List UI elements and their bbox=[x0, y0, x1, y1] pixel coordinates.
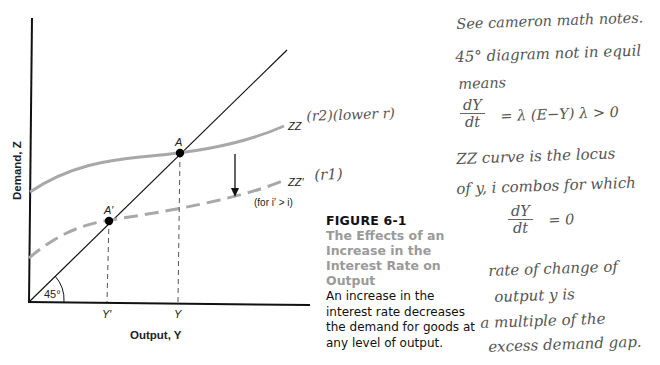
chart: A A′ ZZ ZZ′ (for i′ > i) 45° Y′ Y Output… bbox=[0, 0, 330, 365]
hw-eq1-den: dt bbox=[460, 114, 485, 130]
x-axis-label: Output, Y bbox=[130, 329, 182, 341]
hw-eq1-rhs: = λ (E−Y) λ > 0 bbox=[500, 104, 619, 124]
45-degree-line bbox=[29, 50, 287, 302]
x-axis bbox=[28, 302, 310, 305]
hw-line3: means bbox=[458, 74, 506, 92]
figure-label: FIGURE 6-1 bbox=[326, 213, 476, 228]
figure-body: An increase in the interest rate decreas… bbox=[326, 289, 476, 351]
hw-eq1-num: dY bbox=[460, 97, 485, 114]
hw-eq1-frac: dY dt bbox=[460, 97, 485, 130]
dropline-a bbox=[178, 153, 180, 302]
figure-caption: FIGURE 6-1 The Effects of an Increase in… bbox=[326, 213, 476, 351]
label-a-prime: A′ bbox=[103, 204, 114, 216]
hw-line1: See cameron math notes. bbox=[456, 9, 644, 32]
hw-line4: ZZ curve is the locus bbox=[456, 144, 616, 168]
hw-line6: rate of change of bbox=[488, 257, 618, 280]
label-angle: 45° bbox=[44, 288, 61, 300]
hw-eq2-frac: dY dt bbox=[508, 203, 533, 236]
tick-y: Y bbox=[174, 308, 182, 320]
figure-title: The Effects of an Increase in the Intere… bbox=[326, 228, 476, 288]
hw-line7: output y is bbox=[494, 285, 575, 306]
hw-zzp-note: (r1) bbox=[314, 165, 343, 184]
hw-eq2-den: dt bbox=[508, 220, 533, 236]
hw-line8: a multiple of the bbox=[480, 310, 606, 332]
hw-line5: of y, i combos for which bbox=[456, 174, 636, 198]
y-axis bbox=[29, 18, 32, 303]
hw-zz-note: (r2)(lower r) bbox=[306, 105, 395, 124]
tick-y-prime: Y′ bbox=[102, 308, 112, 320]
label-zz: ZZ bbox=[287, 120, 303, 132]
hw-eq2-rhs: = 0 bbox=[548, 211, 575, 228]
hw-eq2-num: dY bbox=[508, 203, 533, 220]
label-a: A bbox=[174, 136, 182, 148]
zz-curve bbox=[30, 126, 284, 192]
dropline-a-prime bbox=[107, 220, 109, 302]
hw-line2: 45° diagram not in equil bbox=[455, 42, 641, 66]
point-a bbox=[176, 149, 184, 157]
point-a-prime bbox=[105, 217, 113, 225]
label-zz-prime: ZZ′ bbox=[287, 176, 304, 188]
y-axis-label: Demand, Z bbox=[11, 141, 23, 200]
zz-prime-curve bbox=[29, 180, 285, 258]
label-for-note: (for i′ > i) bbox=[254, 197, 293, 208]
hw-line9: excess demand gap. bbox=[488, 333, 642, 356]
